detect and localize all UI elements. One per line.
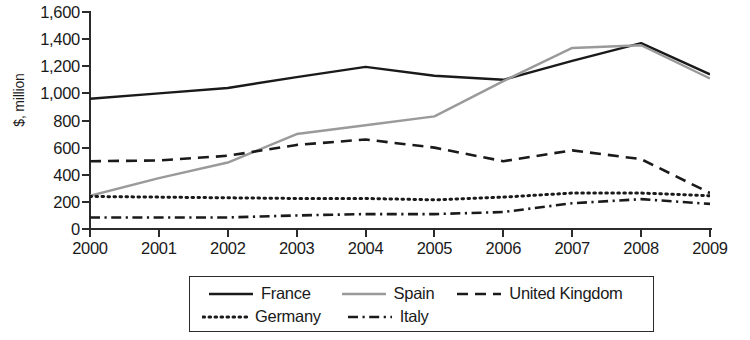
x-tick-label: 2003 xyxy=(262,240,332,257)
y-axis-tick-labels: 02004006008001,0001,2001,4001,600 xyxy=(0,0,80,240)
x-tick-label: 2009 xyxy=(675,240,745,257)
y-tick-mark xyxy=(82,201,90,203)
x-tick-label: 2004 xyxy=(331,240,401,257)
y-tick-label: 1,600 xyxy=(6,4,80,21)
x-tick-label: 2006 xyxy=(468,240,538,257)
legend-item-spain[interactable]: Spain xyxy=(311,285,435,302)
x-tick-mark xyxy=(158,230,160,237)
series-line-germany xyxy=(90,193,710,200)
y-tick-mark xyxy=(82,92,90,94)
legend-label-germany: Germany xyxy=(255,308,321,325)
legend-label-italy: Italy xyxy=(400,308,429,325)
y-tick-mark xyxy=(82,38,90,40)
plot-area xyxy=(90,12,710,229)
x-tick-mark xyxy=(640,230,642,237)
legend-row: GermanyItaly xyxy=(200,305,653,328)
legend-item-italy[interactable]: Italy xyxy=(321,308,429,325)
x-tick-mark xyxy=(227,230,229,237)
series-lines xyxy=(90,12,710,229)
legend-label-spain: Spain xyxy=(394,285,435,302)
x-tick-mark xyxy=(365,230,367,237)
legend-row: FranceSpainUnited Kingdom xyxy=(200,282,653,305)
line-chart: $, million 02004006008001,0001,2001,4001… xyxy=(0,0,750,340)
y-tick-mark xyxy=(82,174,90,176)
x-tick-mark xyxy=(502,230,504,237)
x-tick-label: 2005 xyxy=(399,240,469,257)
legend-label-france: France xyxy=(261,285,311,302)
legend-swatch-uk-icon xyxy=(456,287,502,301)
series-line-united-kingdom xyxy=(90,139,710,193)
y-tick-mark xyxy=(82,147,90,149)
legend: FranceSpainUnited KingdomGermanyItaly xyxy=(189,276,654,332)
y-tick-label: 0 xyxy=(6,221,80,238)
series-line-france xyxy=(90,43,710,99)
legend-item-germany[interactable]: Germany xyxy=(200,308,321,325)
series-line-italy xyxy=(90,199,710,217)
series-line-spain xyxy=(90,45,710,196)
legend-swatch-germany-icon xyxy=(202,310,248,324)
y-tick-mark xyxy=(82,65,90,67)
y-tick-label: 400 xyxy=(6,167,80,184)
legend-swatch-spain-icon xyxy=(341,287,387,301)
legend-label-uk: United Kingdom xyxy=(509,285,622,302)
x-tick-label: 2007 xyxy=(537,240,607,257)
y-tick-label: 1,200 xyxy=(6,58,80,75)
x-tick-label: 2008 xyxy=(606,240,676,257)
x-tick-mark xyxy=(433,230,435,237)
x-tick-mark xyxy=(709,230,711,237)
x-tick-mark xyxy=(571,230,573,237)
x-tick-label: 2000 xyxy=(55,240,125,257)
y-tick-label: 600 xyxy=(6,140,80,157)
y-tick-label: 1,400 xyxy=(6,31,80,48)
x-tick-label: 2002 xyxy=(193,240,263,257)
legend-swatch-italy-icon xyxy=(347,310,393,324)
x-tick-mark xyxy=(296,230,298,237)
legend-item-uk[interactable]: United Kingdom xyxy=(434,285,622,302)
y-tick-mark xyxy=(82,120,90,122)
y-tick-label: 800 xyxy=(6,113,80,130)
legend-swatch-france-icon xyxy=(208,287,254,301)
y-tick-label: 200 xyxy=(6,194,80,211)
y-tick-label: 1,000 xyxy=(6,85,80,102)
y-tick-mark xyxy=(82,11,90,13)
legend-item-france[interactable]: France xyxy=(200,285,311,302)
x-tick-label: 2001 xyxy=(124,240,194,257)
x-tick-mark xyxy=(89,230,91,237)
